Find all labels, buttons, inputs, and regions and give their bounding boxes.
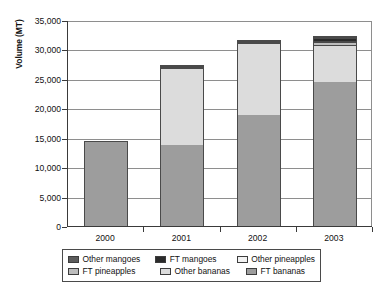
legend-swatch-icon: [237, 256, 248, 263]
x-axis-tick-mark: [143, 227, 144, 232]
bar-chart: Volume (MT) 05,00010,00015,00020,00025,0…: [0, 0, 382, 294]
legend-swatch-icon: [68, 268, 79, 275]
bar-2002: [237, 40, 281, 226]
legend-item-other-mangoes[interactable]: Other mangoes: [68, 255, 155, 263]
plot-frame-right: [371, 21, 372, 226]
bar-segment-other-bananas: [161, 68, 203, 145]
y-axis-tick-label: 20,000: [15, 105, 61, 114]
x-axis-tick-mark: [296, 227, 297, 232]
y-axis-tick-label: 10,000: [15, 164, 61, 173]
legend-swatch-icon: [155, 256, 166, 263]
legend-swatch-icon: [246, 268, 257, 275]
bar-2003: [313, 36, 357, 226]
x-axis-tick-label: 2000: [75, 233, 135, 243]
bar-segment-ft-bananas: [314, 82, 356, 226]
legend-row: FT pineapplesOther bananasFT bananas: [68, 265, 315, 277]
y-axis-tick-label: 15,000: [15, 135, 61, 144]
legend-swatch-icon: [160, 268, 171, 275]
bar-segment-ft-bananas: [85, 142, 127, 226]
legend-item-ft-mangoes[interactable]: FT mangoes: [155, 255, 237, 263]
bar-2000: [84, 141, 128, 226]
y-axis-tick-label: 5,000: [15, 194, 61, 203]
bar-segment-other-bananas: [238, 43, 280, 115]
bar-2001: [160, 65, 204, 226]
bar-segment-ft-bananas: [238, 115, 280, 226]
y-axis-title: Volume (MT): [14, 4, 24, 84]
legend-item-ft-bananas[interactable]: FT bananas: [246, 267, 305, 275]
x-axis-tick-label: 2001: [151, 233, 211, 243]
x-axis-tick-label: 2003: [304, 233, 364, 243]
gridline: [68, 21, 372, 22]
bar-segment-other-bananas: [314, 45, 356, 82]
legend-label: FT mangoes: [170, 255, 217, 263]
legend-item-other-bananas[interactable]: Other bananas: [160, 267, 246, 275]
x-axis-tick-mark: [220, 227, 221, 232]
chart-legend: Other mangoesFT mangoesOther pineapplesF…: [62, 249, 321, 282]
legend-label: Other pineapples: [251, 255, 315, 263]
x-axis-tick-mark: [372, 227, 373, 232]
legend-label: Other mangoes: [83, 255, 141, 263]
x-axis-tick-label: 2002: [228, 233, 288, 243]
legend-item-ft-pineapples[interactable]: FT pineapples: [68, 267, 160, 275]
y-axis-tick-label: 0: [15, 223, 61, 232]
legend-item-other-pineapples[interactable]: Other pineapples: [237, 255, 315, 263]
legend-label: FT bananas: [261, 267, 306, 275]
legend-swatch-icon: [68, 256, 79, 263]
legend-row: Other mangoesFT mangoesOther pineapples: [68, 253, 315, 265]
y-axis-tick-label: 25,000: [15, 76, 61, 85]
y-axis-tick-label: 35,000: [15, 17, 61, 26]
y-axis-tick-mark: [62, 227, 67, 228]
bar-segment-ft-bananas: [161, 145, 203, 226]
y-axis-tick-label: 30,000: [15, 46, 61, 55]
plot-area: [67, 21, 372, 227]
legend-label: Other bananas: [175, 267, 230, 275]
legend-label: FT pineapples: [83, 267, 136, 275]
